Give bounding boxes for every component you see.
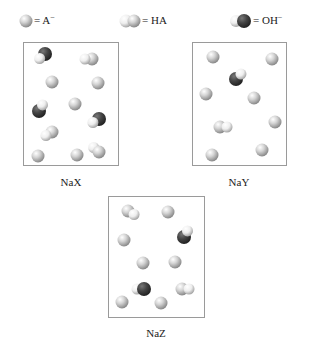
panel-naz: NaZ xyxy=(109,197,205,340)
a-minus-ion xyxy=(137,257,150,270)
oh-h-sphere xyxy=(235,69,246,80)
panel-nax-label: NaX xyxy=(61,176,82,188)
a-minus-sphere xyxy=(92,77,105,90)
oh-h-sphere xyxy=(182,225,193,236)
oh-h-sphere xyxy=(34,53,45,64)
legend-item-a-minus: = A− xyxy=(20,13,56,28)
a-minus-sphere xyxy=(256,144,269,157)
a-minus-sphere xyxy=(155,297,168,310)
legend-oh-o-sphere xyxy=(237,14,251,28)
ha-molecule xyxy=(80,53,99,66)
oh-o-sphere xyxy=(137,282,151,296)
a-minus-ion xyxy=(71,149,84,162)
a-minus-sphere xyxy=(69,98,82,111)
a-minus-ion xyxy=(207,51,220,64)
legend-label-ha: = HA xyxy=(142,14,167,26)
a-minus-sphere xyxy=(269,116,282,129)
a-minus-ion xyxy=(169,256,182,269)
a-minus-ion xyxy=(92,77,105,90)
a-minus-sphere xyxy=(162,206,175,219)
panel-naz-label: NaZ xyxy=(146,327,166,339)
a-minus-ion xyxy=(162,206,175,219)
panel-nay: NaY xyxy=(193,43,287,189)
a-minus-ion xyxy=(46,76,59,89)
legend-item-ha: = HA xyxy=(120,14,167,28)
legend-ha-a-sphere xyxy=(128,15,141,28)
a-minus-ion xyxy=(116,296,129,309)
a-minus-ion xyxy=(266,53,279,66)
a-minus-ion xyxy=(118,234,131,247)
oh-h-sphere xyxy=(87,117,98,128)
ha-h-sphere xyxy=(222,122,233,133)
a-minus-sphere-icon xyxy=(20,15,33,28)
legend-label-a-minus: = A− xyxy=(34,13,55,26)
a-minus-sphere xyxy=(118,234,131,247)
oh-minus-molecule-icon xyxy=(230,14,251,28)
a-minus-sphere xyxy=(71,149,84,162)
a-minus-sphere xyxy=(207,51,220,64)
a-minus-sphere xyxy=(32,150,45,163)
panel-nay-label: NaY xyxy=(229,176,250,188)
legend-label-oh-minus: = OH− xyxy=(253,13,283,26)
ha-molecule xyxy=(214,121,233,134)
a-minus-sphere xyxy=(248,92,261,105)
ha-a-sphere xyxy=(93,146,106,159)
a-minus-ion xyxy=(155,297,168,310)
a-minus-sphere xyxy=(169,256,182,269)
a-minus-sphere xyxy=(20,15,33,28)
ha-h-sphere xyxy=(80,54,91,65)
ha-molecule xyxy=(176,283,195,296)
ha-h-sphere xyxy=(40,130,51,141)
a-minus-ion xyxy=(248,92,261,105)
a-minus-sphere xyxy=(46,76,59,89)
a-minus-sphere xyxy=(116,296,129,309)
a-minus-sphere xyxy=(137,257,150,270)
panel-nax: NaX xyxy=(24,43,119,189)
oh-h-sphere xyxy=(37,99,48,110)
a-minus-ion xyxy=(206,149,219,162)
diagram-canvas: = A− = HA = OH− NaX NaY NaZ xyxy=(0,0,316,347)
ha-molecule-icon xyxy=(120,15,141,28)
a-minus-sphere xyxy=(266,53,279,66)
a-minus-ion xyxy=(69,98,82,111)
legend-item-oh-minus: = OH− xyxy=(230,13,283,28)
a-minus-sphere xyxy=(200,88,213,101)
a-minus-ion xyxy=(20,15,33,28)
legend: = A− = HA = OH− xyxy=(20,13,283,28)
a-minus-sphere xyxy=(206,149,219,162)
a-minus-ion xyxy=(200,88,213,101)
ha-h-sphere xyxy=(184,284,195,295)
a-minus-ion xyxy=(32,150,45,163)
a-minus-ion xyxy=(256,144,269,157)
a-minus-ion xyxy=(269,116,282,129)
ha-h-sphere xyxy=(129,209,140,220)
